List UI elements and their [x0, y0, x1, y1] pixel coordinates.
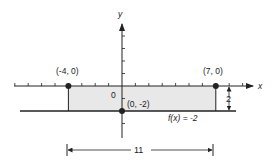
point-left-label: (-4, 0): [56, 66, 79, 76]
point-right: [213, 83, 219, 89]
function-label: f(x) = -2: [168, 113, 198, 123]
point-left: [65, 83, 71, 89]
y-axis-label: y: [117, 9, 123, 19]
origin-label: 0: [111, 90, 116, 100]
width-dimension-label: 11: [134, 145, 143, 155]
point-intercept: [119, 108, 125, 114]
point-intercept-label: (0, -2): [127, 99, 150, 109]
height-dimension-label: 2: [226, 94, 231, 104]
diagram: x y 0 f(x) = -2 (-4, 0) (7, 0) (0, -2) 2…: [0, 0, 273, 167]
x-axis-label: x: [257, 81, 263, 91]
point-right-label: (7, 0): [203, 66, 223, 76]
